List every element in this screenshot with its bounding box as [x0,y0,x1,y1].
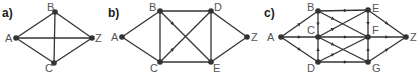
node-c-E [365,7,371,13]
node-label-b-Z: Z [251,31,258,43]
node-c-G [365,59,371,65]
node-b-D [208,8,214,14]
node-label-a-A: A [5,32,13,44]
node-label-c-B: B [307,1,314,13]
node-label-c-G: G [372,62,381,74]
node-label-b-B: B [149,1,156,13]
node-c-D [315,59,321,65]
arrowhead-icon [366,22,370,25]
node-label-a-Z: Z [95,32,102,44]
panel-label-a: a) [2,6,13,20]
arrowhead-icon [344,9,347,13]
arrowhead-icon [316,22,320,25]
edge-C-Z [54,38,92,63]
edge-E-Z [211,37,247,62]
arrowhead-icon [344,35,347,39]
node-c-F [365,34,371,40]
panel-label-b: b) [108,6,119,20]
node-c-Z [403,34,409,40]
node-label-b-D: D [214,1,222,13]
node-label-b-A: A [111,31,119,43]
node-label-a-B: B [47,1,54,13]
arrowhead-icon [366,48,370,51]
arrowhead-icon [385,35,388,39]
node-b-B [157,8,163,14]
edge-D-Z [211,11,247,37]
node-label-c-D: D [307,62,315,74]
graph-a: a)ABCZ [2,1,102,74]
edge-A-B [122,11,160,37]
node-c-C [315,34,321,40]
node-label-c-Z: Z [410,31,417,43]
node-label-b-E: E [213,62,220,74]
arrowhead-icon [344,60,347,64]
node-c-A [278,34,284,40]
node-b-C [157,59,163,65]
panel-label-c: c) [264,6,275,20]
graph-diagrams: a)ABCZ b)ABCDEZ c)ABCDEFGZ [0,0,418,76]
node-b-Z [244,34,250,40]
node-label-b-C: C [150,62,158,74]
edge-B-Z [55,12,92,38]
node-a-Z [89,35,95,41]
node-label-c-F: F [372,24,379,36]
node-label-c-E: E [372,2,379,14]
node-label-c-A: A [267,31,275,43]
graph-b: b)ABCDEZ [108,1,258,74]
edge-A-C [16,38,54,63]
edge-A-B [16,12,55,38]
arrowhead-icon [316,48,320,51]
edge-B-C [54,12,55,63]
edge-B-E [318,10,368,11]
edge-A-C [122,37,160,62]
arrowhead-icon [298,35,301,39]
node-a-A [13,35,19,41]
graph-c: c)ABCDEFGZ [264,1,417,74]
node-b-A [119,34,125,40]
node-label-a-C: C [45,62,53,74]
node-c-B [315,8,321,14]
node-label-c-C: C [307,24,315,36]
